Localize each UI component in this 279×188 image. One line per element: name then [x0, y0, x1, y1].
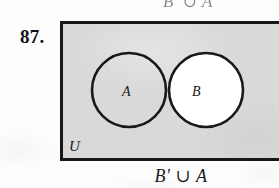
figure-caption: B' ∪ A: [118, 165, 244, 187]
previous-figure-caption: B' ∪ A: [128, 0, 248, 12]
set-label-b: B: [192, 85, 201, 99]
venn-circles: [60, 21, 279, 161]
figure-page: B' ∪ A 87. U A B B' ∪ A: [0, 0, 279, 188]
set-label-a: A: [122, 85, 131, 99]
exercise-number: 87.: [20, 26, 45, 48]
